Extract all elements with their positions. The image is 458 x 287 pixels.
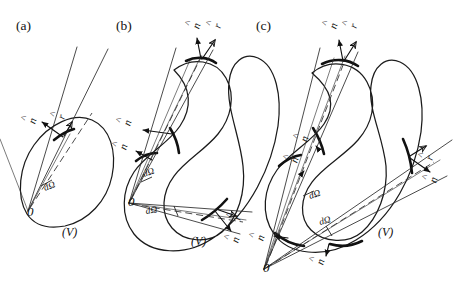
solid-angle-b-label-2: dΩ bbox=[145, 204, 158, 216]
origin-a-label: 0 bbox=[27, 204, 34, 219]
panel-c-label: (c) bbox=[256, 18, 271, 33]
panel-a-label: (a) bbox=[16, 18, 31, 33]
volume-c-label: (V) bbox=[378, 225, 393, 239]
origin-c-label: 0 bbox=[263, 260, 270, 275]
canvas-background bbox=[0, 0, 458, 287]
origin-b-label: 0 bbox=[128, 194, 135, 209]
panel-b-label: (b) bbox=[116, 18, 132, 33]
diagram-svg: (a) ^ n ^ r dΩ 0 (V) bbox=[0, 0, 458, 287]
volume-a-label: (V) bbox=[62, 225, 77, 239]
volume-b-label: (V) bbox=[191, 234, 206, 248]
figure-canvas: (a) ^ n ^ r dΩ 0 (V) bbox=[0, 0, 458, 287]
